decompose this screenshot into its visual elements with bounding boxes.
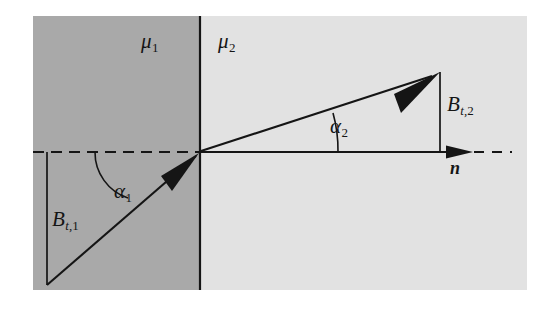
refraction-diagram-canvas xyxy=(0,0,560,309)
figure-root: μ1 μ2 α1 α2 Bt,1 Bt,2 n xyxy=(0,0,560,309)
